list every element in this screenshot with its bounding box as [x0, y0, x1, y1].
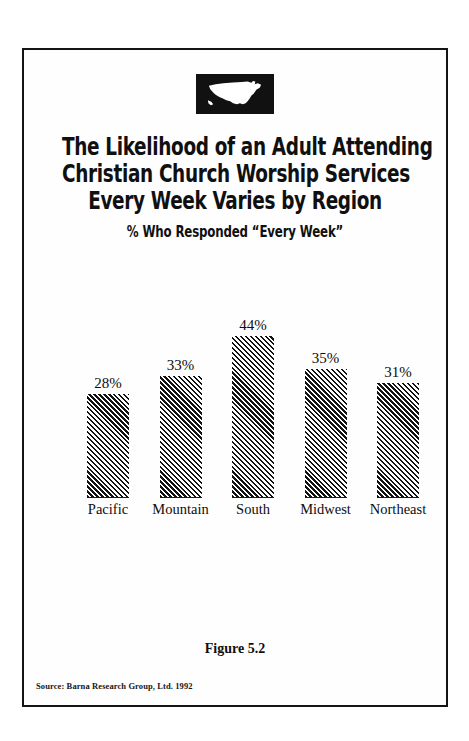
figure-title-block: The Likelihood of an Adult Attending Chr… [24, 133, 446, 241]
bar-series: 28%Pacific33%Mountain44%South35%Midwest3… [58, 290, 448, 498]
figure-subtitle: % Who Responded “Every Week” [62, 223, 408, 241]
title-line-3: Every Week Varies by Region [62, 187, 408, 214]
figure-frame: The Likelihood of an Adult Attending Chr… [22, 48, 448, 707]
bar-category-label: Northeast [370, 502, 426, 517]
bar-value-label: 33% [167, 358, 195, 373]
bar-category-label: Mountain [152, 502, 208, 517]
source-note: Source: Barna Research Group, Ltd. 1992 [36, 681, 193, 691]
title-line-1: The Likelihood of an Adult Attending [62, 133, 408, 160]
figure-caption: Figure 5.2 [24, 641, 446, 657]
bar-group: 33%Mountain [155, 290, 207, 498]
title-line-2: Christian Church Worship Services [62, 160, 408, 187]
bar-group: 28%Pacific [82, 290, 134, 498]
usa-map-icon [204, 79, 266, 109]
bar-category-label: South [236, 502, 270, 517]
bar-rect [87, 394, 129, 498]
bar-category-label: Midwest [300, 502, 351, 517]
bar-value-label: 28% [94, 376, 122, 391]
bar-group: 44%South [227, 290, 279, 498]
bar-rect [160, 376, 202, 498]
bar-category-label: Pacific [88, 502, 128, 517]
bar-rect [305, 369, 347, 498]
bar-value-label: 31% [384, 365, 412, 380]
bar-value-label: 35% [312, 351, 340, 366]
bar-value-label: 44% [239, 318, 267, 333]
bar-rect [232, 336, 274, 498]
bar-chart: 28%Pacific33%Mountain44%South35%Midwest3… [58, 290, 448, 530]
bar-group: 35%Midwest [300, 290, 352, 498]
bar-group: 31%Northeast [372, 290, 424, 498]
usa-map-logo [196, 74, 274, 114]
bar-rect [377, 383, 419, 498]
